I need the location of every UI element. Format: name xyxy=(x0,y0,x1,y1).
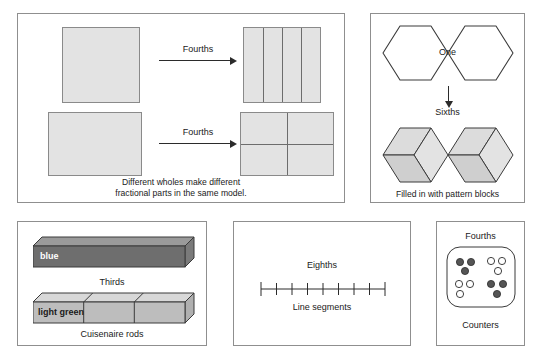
arrow-right-icon xyxy=(159,56,237,66)
counters-set xyxy=(446,246,516,308)
fourths-arrow-top-label: Fourths xyxy=(159,44,237,54)
whole-rectangle-bottom xyxy=(48,112,142,176)
pattern-blocks-filled xyxy=(381,124,515,186)
partitioned-rectangle-bottom xyxy=(240,112,334,176)
cuisenaire-caption: Cuisenaire rods xyxy=(18,329,206,339)
fourths-label: Fourths xyxy=(437,231,524,241)
pattern-blocks-caption: Filled in with pattern blocks xyxy=(371,189,524,200)
blue-rod-label: blue xyxy=(40,251,59,261)
line-segments-caption: Line segments xyxy=(234,302,410,312)
sixths-arrow xyxy=(448,86,449,102)
fourths-arrow-bottom-label: Fourths xyxy=(159,127,237,137)
cuisenaire-rods-panel: blue Thirds light green Cuisenaire rods xyxy=(17,221,207,346)
thirds-label: Thirds xyxy=(18,277,206,287)
eighths-label: Eighths xyxy=(234,260,410,270)
partition-line xyxy=(301,28,302,102)
line-segments-panel: Eighths Line segments xyxy=(233,221,411,346)
fourths-arrow-top: Fourths xyxy=(159,44,237,66)
counters-panel: Fourths Counters xyxy=(436,221,525,346)
area-model-panel: Fourths Fourths Different wholes make di… xyxy=(17,13,345,203)
whole-label: One xyxy=(371,47,524,57)
arrow-right-icon xyxy=(159,139,237,149)
partitioned-square-top xyxy=(243,27,321,103)
area-model-caption-line1: Different wholes make different xyxy=(18,177,344,188)
fourths-arrow-bottom: Fourths xyxy=(159,127,237,149)
area-model-caption-line2: fractional parts in the same model. xyxy=(18,188,344,199)
pattern-blocks-panel: One Sixths Filled in with pattern blocks xyxy=(370,13,525,203)
eighths-number-line xyxy=(259,279,387,297)
partition-line xyxy=(241,144,333,145)
sixths-arrow-label: Sixths xyxy=(371,107,524,117)
counters-caption: Counters xyxy=(437,320,524,330)
partition-line xyxy=(282,28,283,102)
partition-line xyxy=(263,28,264,102)
whole-square-top xyxy=(62,27,140,103)
light-green-rod-label: light green xyxy=(38,307,84,317)
